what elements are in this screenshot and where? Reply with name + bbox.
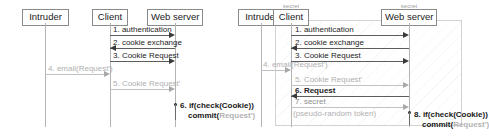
message-arrow-4 xyxy=(261,70,288,71)
lifeline-label-web-server: Web server xyxy=(385,11,433,22)
message-arrow-5 xyxy=(110,89,172,90)
message-label-7: 7. secret xyxy=(295,97,326,106)
message-arrow-1 xyxy=(110,35,172,36)
lifeline-label-client: Client xyxy=(279,11,303,22)
message-label-4: 4. email(Request') xyxy=(263,60,328,69)
self-message-stem-6 xyxy=(175,104,176,120)
left-sequence-diagram: Intruder Client Web server 1. authentica… xyxy=(0,0,244,137)
message-arrow-2 xyxy=(110,48,175,49)
message-label-6: 6. Request xyxy=(295,86,335,95)
message-label-3: 3. Cookie Request xyxy=(295,51,361,60)
arrowhead-5-icon xyxy=(403,82,409,88)
lifeline-label-web-server: Web server xyxy=(151,11,199,22)
message-arrow-4 xyxy=(45,74,107,75)
lifeline-client xyxy=(110,23,111,127)
self-message-label-8-line2: commit(Request') xyxy=(414,120,489,130)
message-arrow-7 xyxy=(291,107,406,108)
message-arrow-1 xyxy=(291,35,406,36)
self-message-label-8: 8. if(check(Cookie)) commit(Request') xyxy=(414,110,489,129)
arrowhead-1-icon xyxy=(403,32,409,38)
right-sequence-diagram: secret secret Intruder Client Web server… xyxy=(244,0,488,137)
self-message-stem-8 xyxy=(409,112,410,125)
lifeline-label-intruder: Intruder xyxy=(29,11,62,22)
message-label-2: 2. cookie exchange xyxy=(295,38,364,47)
message-label-1: 1. authentication xyxy=(295,25,354,34)
message-label-1: 1. authentication xyxy=(113,25,172,34)
message-note-pseudo-random-token: (pseudo-random token) xyxy=(293,109,376,118)
lifeline-client xyxy=(291,23,292,127)
message-arrow-3 xyxy=(110,61,172,62)
arrowhead-3-icon xyxy=(403,58,409,64)
message-label-5: 5. Cookie Request' xyxy=(295,75,362,84)
self-message-label-8-arg: Request') xyxy=(453,120,489,129)
self-message-label-8-commit: commit( xyxy=(422,120,453,129)
message-label-5: 5. Cookie Request' xyxy=(113,79,180,88)
arrowhead-7-icon xyxy=(403,104,409,110)
message-label-2: 2. cookie exchange xyxy=(113,38,182,47)
lifeline-intruder xyxy=(45,23,46,127)
self-message-label-6-commit: commit( xyxy=(188,111,219,120)
lifeline-intruder xyxy=(261,23,262,127)
message-arrow-2 xyxy=(291,48,409,49)
message-label-4: 4. email(Request') xyxy=(48,64,113,73)
self-message-label-8-line1: 8. if(check(Cookie)) xyxy=(414,110,489,120)
message-label-3: 3. Cookie Request xyxy=(113,51,179,60)
lifeline-label-client: Client xyxy=(98,11,122,22)
